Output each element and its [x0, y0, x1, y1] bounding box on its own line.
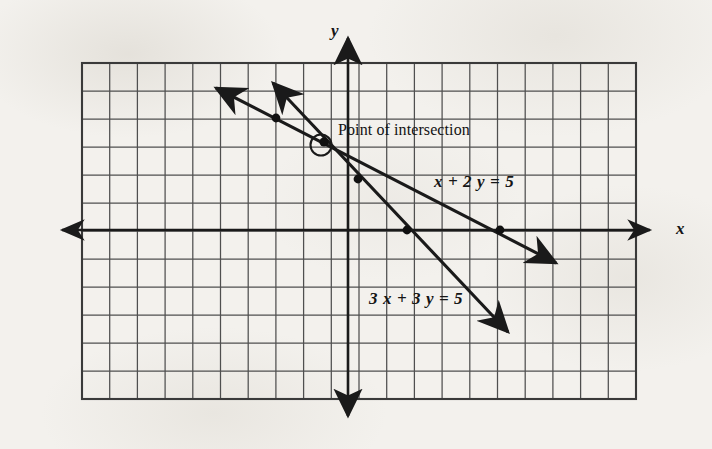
- x-axis-label: x: [676, 219, 685, 239]
- data-point-marker: [403, 226, 412, 235]
- data-point-marker: [272, 114, 281, 123]
- y-axis-label: y: [331, 21, 339, 41]
- equation-label-2: 3 x + 3 y = 5: [369, 289, 463, 309]
- intersection-label: Point of intersection: [338, 121, 470, 139]
- data-point-marker: [354, 175, 363, 184]
- axes: [62, 38, 650, 416]
- plot-canvas: [0, 0, 712, 449]
- equation-label-1: x + 2 y = 5: [434, 172, 514, 192]
- data-point-marker: [496, 226, 505, 235]
- graph-figure: x + 2 y = 5 3 x + 3 y = 5 Point of inter…: [0, 0, 712, 449]
